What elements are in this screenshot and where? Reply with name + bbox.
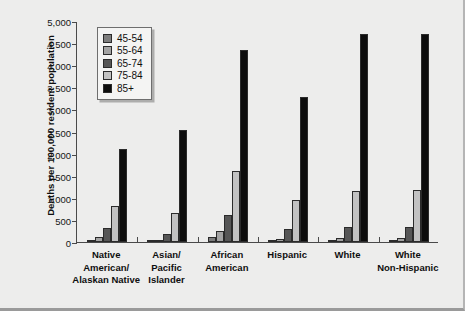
y-axis-tick-label: 2,500 xyxy=(37,127,71,138)
bar-55-64 xyxy=(216,231,224,242)
bar-group-bars xyxy=(318,22,378,242)
bar-55-64 xyxy=(276,239,284,242)
bar-65-74 xyxy=(103,228,111,242)
bar-group xyxy=(198,22,258,242)
legend-swatch-85plus-icon xyxy=(103,84,112,93)
legend-item[interactable]: 45-54 xyxy=(103,32,143,45)
y-axis-tick-label: 500 xyxy=(37,215,71,226)
bar-85plus xyxy=(119,149,127,242)
x-axis-label-line: Islander xyxy=(124,274,208,287)
bar-group-bars xyxy=(198,22,258,242)
x-axis-label-line: Non-Hispanic xyxy=(366,262,450,275)
y-axis-tick-label: 5,000 xyxy=(37,17,71,28)
legend-swatch-75-84-icon xyxy=(103,71,112,80)
legend-swatch-45-54-icon xyxy=(103,34,112,43)
x-axis-tick-mark xyxy=(379,237,380,242)
x-axis-tick-mark xyxy=(137,237,138,242)
bar-85plus xyxy=(179,130,187,242)
bar-45-54 xyxy=(208,237,216,242)
y-axis-tick-label: 4,000 xyxy=(37,61,71,72)
bar-75-84 xyxy=(232,171,240,242)
x-axis-tick-mark xyxy=(258,237,259,242)
y-axis-tick-label: 3,500 xyxy=(37,83,71,94)
bar-85plus xyxy=(360,34,368,242)
legend-item-label: 65-74 xyxy=(117,58,143,69)
y-axis-tick-label: 2,000 xyxy=(37,149,71,160)
chart-legend: 45-5455-6465-7475-8485+ xyxy=(97,27,152,100)
bar-75-84 xyxy=(413,190,421,242)
legend-item[interactable]: 85+ xyxy=(103,82,143,95)
legend-item-label: 55-64 xyxy=(117,45,143,56)
bar-45-54 xyxy=(87,240,95,242)
bar-75-84 xyxy=(111,206,119,242)
bar-65-74 xyxy=(284,229,292,242)
legend-swatch-65-74-icon xyxy=(103,59,112,68)
bar-group xyxy=(318,22,378,242)
bar-75-84 xyxy=(352,191,360,242)
legend-item-label: 85+ xyxy=(117,83,134,94)
bar-55-64 xyxy=(155,240,163,242)
bar-65-74 xyxy=(405,227,413,242)
bar-85plus xyxy=(421,34,429,242)
legend-item-label: 45-54 xyxy=(117,33,143,44)
bar-65-74 xyxy=(344,227,352,242)
y-axis-tick-mark xyxy=(72,243,77,244)
bar-45-54 xyxy=(268,240,276,242)
x-axis-tick-mark xyxy=(198,237,199,242)
bar-45-54 xyxy=(147,240,155,242)
bar-55-64 xyxy=(336,238,344,242)
bar-group xyxy=(379,22,439,242)
y-axis-tick-label: 1,000 xyxy=(37,193,71,204)
bar-75-84 xyxy=(292,200,300,242)
x-axis-label-line: American xyxy=(185,262,269,275)
legend-item[interactable]: 55-64 xyxy=(103,45,143,58)
legend-item[interactable]: 65-74 xyxy=(103,57,143,70)
bar-45-54 xyxy=(328,240,336,242)
bar-group xyxy=(258,22,318,242)
bar-65-74 xyxy=(163,234,171,242)
y-axis-tick-label: 0 xyxy=(37,238,71,249)
y-axis-tick-label: 1,500 xyxy=(37,171,71,182)
x-axis-tick-mark xyxy=(318,237,319,242)
legend-item-label: 75-84 xyxy=(117,70,143,81)
y-axis-tick-label: 4,500 xyxy=(37,39,71,50)
bar-45-54 xyxy=(389,240,397,242)
bar-group-bars xyxy=(258,22,318,242)
legend-item[interactable]: 75-84 xyxy=(103,70,143,83)
bar-55-64 xyxy=(95,237,103,242)
chart-figure: Deaths per 100,000 resident population 0… xyxy=(0,0,465,311)
x-axis-label: WhiteNon-Hispanic xyxy=(366,249,450,274)
chart-canvas: Deaths per 100,000 resident population 0… xyxy=(0,0,462,305)
bar-65-74 xyxy=(224,215,232,242)
bar-85plus xyxy=(240,50,248,242)
x-axis-label-line: White xyxy=(366,249,450,262)
bar-85plus xyxy=(300,97,308,242)
y-axis-tick-label: 3,000 xyxy=(37,105,71,116)
bar-55-64 xyxy=(397,238,405,242)
legend-swatch-55-64-icon xyxy=(103,46,112,55)
bar-group-bars xyxy=(379,22,439,242)
bar-75-84 xyxy=(171,213,179,242)
